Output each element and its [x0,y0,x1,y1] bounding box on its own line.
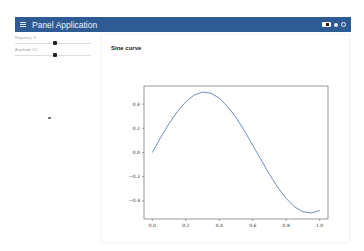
y-tick-label: 0.4 [133,102,140,107]
y-tick-label: −0.2 [129,174,140,179]
x-tick-label: 0.8 [283,223,290,228]
frequency-track[interactable] [15,42,91,45]
sidebar: Frequency: 3 Amplitude: 0.5 [15,36,95,60]
frequency-handle[interactable] [53,41,57,45]
plot-card: Sine curve 0.00.20.40.60.81.0−0.4−0.20.0… [102,35,349,242]
frequency-slider[interactable]: Frequency: 3 [15,36,95,45]
header-controls [322,22,346,27]
amplitude-slider[interactable]: Amplitude: 0.5 [15,48,95,57]
x-tick-label: 0.4 [216,223,223,228]
amplitude-track[interactable] [15,54,91,57]
amplitude-handle[interactable] [53,53,57,57]
status-dot-empty-icon [341,22,346,27]
sine-line [152,92,319,213]
x-tick-label: 1.0 [316,223,323,228]
y-tick-label: 0.0 [133,150,140,155]
sine-chart: 0.00.20.40.60.81.0−0.4−0.20.00.20.4 [102,35,349,242]
hamburger-menu-icon[interactable] [20,22,26,27]
app-header: Panel Application [15,17,351,32]
app-title: Panel Application [32,20,97,30]
plot-frame [144,86,328,219]
theme-toggle[interactable] [322,22,331,27]
status-dot-filled-icon [334,23,338,27]
y-tick-label: −0.4 [129,198,140,203]
y-tick-label: 0.2 [133,126,140,131]
x-tick-label: 0.2 [182,223,189,228]
x-tick-label: 0.6 [249,223,256,228]
x-tick-label: 0.0 [149,223,156,228]
loading-indicator [48,117,51,119]
